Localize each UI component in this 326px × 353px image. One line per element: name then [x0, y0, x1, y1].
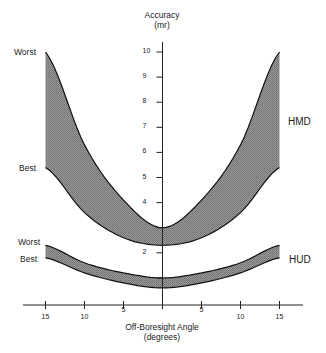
y-tick-label: 9 [143, 72, 147, 79]
x-axis-title-line2: (degrees) [125, 332, 199, 342]
y-tick-label: 2 [143, 248, 147, 255]
x-tick-label: 15 [42, 313, 50, 320]
x-axis-title-line1: Off-Boresight Angle [125, 322, 199, 332]
y-tick-label: 10 [143, 47, 151, 54]
y-tick-label: 7 [143, 122, 147, 129]
y-tick-label: 6 [143, 147, 147, 154]
x-tick-label: 15 [276, 313, 284, 320]
hud-worst-label: Worst [18, 237, 40, 247]
x-tick-label: 10 [237, 313, 245, 320]
chart-plot [0, 0, 326, 353]
x-tick-label: 10 [81, 313, 89, 320]
y-axis-title-line1: Accuracy [145, 10, 180, 20]
hmd-worst-label: Worst [14, 47, 36, 57]
y-axis-title: Accuracy (mr) [145, 10, 180, 30]
y-tick-label: 4 [143, 198, 147, 205]
y-tick-label: 8 [143, 97, 147, 104]
hud-best-label: Best [20, 254, 37, 264]
hmd-best-label: Best [19, 163, 36, 173]
x-tick-label: 5 [122, 306, 126, 313]
y-tick-label: 5 [143, 173, 147, 180]
hud-label: HUD [289, 254, 311, 265]
x-axis-title: Off-Boresight Angle (degrees) [125, 322, 199, 342]
hmd-label: HMD [288, 116, 311, 127]
y-axis-title-line2: (mr) [145, 20, 180, 30]
x-tick-label: 5 [200, 306, 204, 313]
